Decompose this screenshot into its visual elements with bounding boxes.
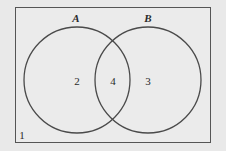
intersection-value: 4 (110, 75, 116, 87)
b-only-value: 3 (145, 75, 151, 87)
venn-diagram: A B 2 4 3 1 (0, 0, 226, 151)
set-b-label: B (143, 12, 151, 24)
a-only-value: 2 (74, 75, 80, 87)
outside-value: 1 (19, 129, 25, 141)
set-a-label: A (71, 12, 79, 24)
